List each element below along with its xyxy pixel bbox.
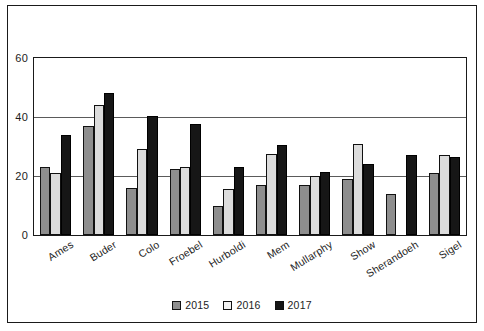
bar-mullarphy-2016	[310, 176, 320, 235]
bar-show-2015	[342, 179, 352, 235]
y-tick-label-20: 20	[15, 170, 28, 182]
bar-buder-2017	[104, 93, 114, 235]
bar-sherandoeh-2017	[406, 155, 416, 235]
legend-item-2015: 2015	[172, 299, 209, 311]
bar-colo-2015	[126, 188, 136, 235]
bar-group	[256, 58, 287, 235]
x-tick-label-sigel: Sigel	[437, 238, 464, 261]
bar-hurboldi-2015	[213, 206, 223, 236]
x-tick-label-mullarphy: Mullarphy	[288, 238, 334, 273]
bar-group	[170, 58, 201, 235]
legend-item-2016: 2016	[223, 299, 260, 311]
bar-hurboldi-2016	[223, 189, 233, 235]
bar-group	[429, 58, 460, 235]
bar-group	[299, 58, 330, 235]
x-axis-labels: AmesBuderColoFroebelHurboldiMemMullarphy…	[33, 238, 467, 294]
legend-item-2017: 2017	[275, 299, 312, 311]
bar-colo-2016	[137, 149, 147, 235]
x-tick-label-ames: Ames	[45, 238, 75, 263]
y-tick-label-60: 60	[15, 52, 28, 64]
bar-group	[83, 58, 114, 235]
x-tick-label-hurboldi: Hurboldi	[207, 238, 248, 270]
bar-ames-2016	[50, 173, 60, 235]
bar-froebel-2016	[180, 167, 190, 235]
bar-mullarphy-2017	[320, 172, 330, 235]
plot-area: 0204060	[33, 57, 467, 236]
x-tick-label-froebel: Froebel	[167, 238, 205, 268]
legend-swatch-2016	[223, 301, 232, 310]
bar-buder-2015	[83, 126, 93, 235]
x-tick-label-colo: Colo	[136, 238, 161, 260]
bar-mem-2015	[256, 185, 266, 235]
bar-ames-2017	[61, 135, 71, 235]
bar-buder-2016	[94, 105, 104, 235]
bar-mem-2017	[277, 145, 287, 235]
bar-sigel-2017	[450, 157, 460, 235]
x-tick-label-buder: Buder	[87, 238, 118, 264]
bars-layer	[34, 58, 466, 235]
bar-group	[126, 58, 157, 235]
y-tick-label-0: 0	[22, 229, 28, 241]
legend-swatch-2015	[172, 301, 181, 310]
bar-froebel-2017	[190, 124, 200, 235]
y-tick-label-40: 40	[15, 111, 28, 123]
x-tick-label-show: Show	[348, 238, 377, 263]
bar-group	[386, 58, 417, 235]
bar-colo-2017	[147, 116, 157, 235]
bar-show-2017	[363, 164, 373, 235]
bar-sherandoeh-2015	[386, 194, 396, 235]
bar-show-2016	[353, 144, 363, 235]
bar-group	[40, 58, 71, 235]
bar-sigel-2015	[429, 173, 439, 235]
bar-chart-figure: 0204060 AmesBuderColoFroebelHurboldiMemM…	[0, 0, 484, 331]
bar-froebel-2015	[170, 169, 180, 235]
bar-sigel-2016	[439, 155, 449, 235]
bar-mullarphy-2015	[299, 185, 309, 235]
bar-group	[342, 58, 373, 235]
chart-legend: 201520162017	[0, 299, 484, 311]
bar-ames-2015	[40, 167, 50, 235]
legend-swatch-2017	[275, 301, 284, 310]
legend-label-2016: 2016	[236, 299, 260, 311]
bar-group	[213, 58, 244, 235]
bar-hurboldi-2017	[234, 167, 244, 235]
legend-label-2015: 2015	[185, 299, 209, 311]
x-tick-label-mem: Mem	[264, 238, 291, 261]
legend-label-2017: 2017	[288, 299, 312, 311]
bar-mem-2016	[266, 154, 276, 235]
